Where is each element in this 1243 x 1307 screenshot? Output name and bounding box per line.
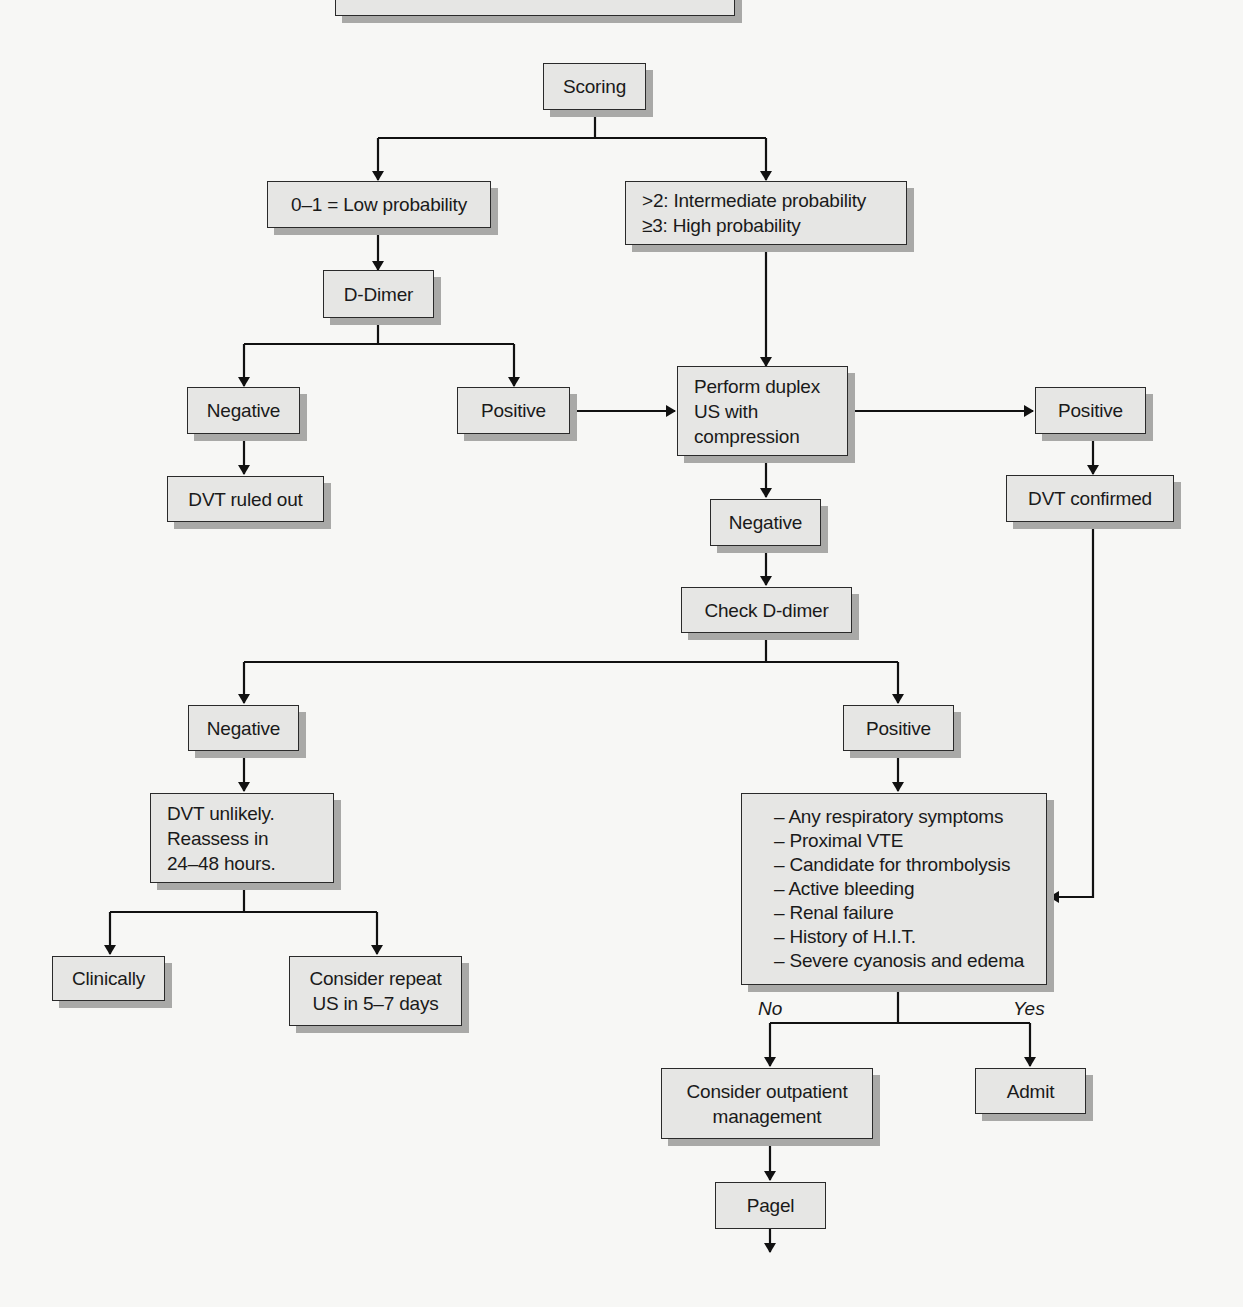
node-line: Consider outpatient xyxy=(687,1079,848,1104)
node-text: Scoring xyxy=(563,74,626,99)
node-line: 24–48 hours. xyxy=(167,851,276,876)
node-pagel: Pagel xyxy=(715,1182,826,1229)
node-cd-negative: Negative xyxy=(188,705,299,751)
flowchart-canvas: Scoring 0–1 = Low probability >2: Interm… xyxy=(0,0,1243,1307)
criteria-item: – History of H.I.T. xyxy=(774,925,1024,949)
node-dvt-unlikely: DVT unlikely. Reassess in 24–48 hours. xyxy=(150,793,334,883)
edge-label-no: No xyxy=(758,998,782,1020)
node-text: Positive xyxy=(866,716,931,741)
node-outpatient: Consider outpatient management xyxy=(661,1068,873,1139)
criteria-item: – Proximal VTE xyxy=(774,829,1024,853)
node-us-positive: Positive xyxy=(1035,387,1146,434)
criteria-item: – Any respiratory symptoms xyxy=(774,805,1024,829)
edge-label-yes: Yes xyxy=(1013,998,1045,1020)
node-text: DVT confirmed xyxy=(1028,486,1152,511)
node-dd-negative: Negative xyxy=(187,387,300,434)
top-box-cutoff xyxy=(335,0,735,16)
node-text: Negative xyxy=(207,716,280,741)
node-dvt-confirmed: DVT confirmed xyxy=(1006,475,1174,522)
criteria-item: – Candidate for thrombolysis xyxy=(774,853,1024,877)
node-line: management xyxy=(687,1104,848,1129)
node-us-negative: Negative xyxy=(710,499,821,546)
node-line: compression xyxy=(694,424,820,449)
node-text: Clinically xyxy=(72,966,145,991)
node-text: Negative xyxy=(729,510,802,535)
node-text: DVT ruled out xyxy=(188,487,302,512)
node-text: Positive xyxy=(481,398,546,423)
node-text: Negative xyxy=(207,398,280,423)
node-line: US in 5–7 days xyxy=(309,991,441,1016)
node-d-dimer: D-Dimer xyxy=(323,270,434,318)
node-admission-criteria: – Any respiratory symptoms – Proximal VT… xyxy=(741,793,1047,985)
node-high-probability: >2: Intermediate probability ≥3: High pr… xyxy=(625,181,907,245)
criteria-item: – Active bleeding xyxy=(774,877,1024,901)
node-cd-positive: Positive xyxy=(843,705,954,751)
node-repeat-us: Consider repeat US in 5–7 days xyxy=(289,956,462,1026)
node-text: Positive xyxy=(1058,398,1123,423)
node-dd-positive: Positive xyxy=(457,387,570,434)
node-line: Perform duplex xyxy=(694,374,820,399)
node-text: Check D-dimer xyxy=(704,598,828,623)
node-line: Reassess in xyxy=(167,826,276,851)
node-scoring: Scoring xyxy=(543,63,646,110)
node-line: Consider repeat xyxy=(309,966,441,991)
node-line: >2: Intermediate probability xyxy=(642,188,866,213)
node-duplex-us: Perform duplex US with compression xyxy=(677,366,848,456)
node-text: Admit xyxy=(1007,1079,1055,1104)
node-line: DVT unlikely. xyxy=(167,801,276,826)
node-line: ≥3: High probability xyxy=(642,213,866,238)
node-clinically: Clinically xyxy=(52,956,165,1001)
node-admit: Admit xyxy=(975,1068,1086,1114)
node-check-d-dimer: Check D-dimer xyxy=(681,587,852,633)
node-text: D-Dimer xyxy=(344,282,413,307)
node-dvt-ruled-out: DVT ruled out xyxy=(167,476,324,522)
criteria-item: – Severe cyanosis and edema xyxy=(774,949,1024,973)
node-text: Pagel xyxy=(747,1193,795,1218)
node-line: US with xyxy=(694,399,820,424)
node-low-probability: 0–1 = Low probability xyxy=(267,181,491,228)
criteria-item: – Renal failure xyxy=(774,901,1024,925)
node-text: 0–1 = Low probability xyxy=(291,192,467,217)
